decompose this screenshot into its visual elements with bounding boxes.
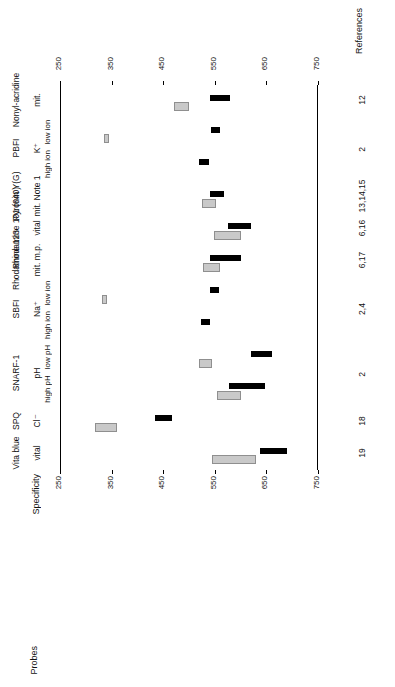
chart-bar	[199, 359, 212, 368]
probe-label: Rhodamine 123	[12, 230, 21, 292]
specificity-label: vital	[33, 221, 42, 238]
specificity-label: mit. Note 1	[33, 176, 42, 219]
probe-sublabel: high ion	[44, 311, 52, 341]
axis-tick	[318, 81, 319, 85]
specificity-label: mit.	[33, 93, 42, 109]
chart-bar	[211, 127, 220, 133]
chart-bar	[201, 319, 210, 325]
chart-bar	[155, 415, 172, 421]
chart-bar	[212, 455, 256, 464]
probe-label: SBFI	[12, 299, 21, 320]
figure-root: Probes Specificity References 2502503503…	[0, 0, 395, 687]
chart-bar	[95, 423, 117, 432]
axis-tick-label: 250	[55, 57, 63, 72]
chart-bar	[229, 383, 265, 389]
probe-label: PBFI	[12, 139, 21, 160]
chart-bar	[199, 159, 208, 165]
axis-tick-label: 350	[107, 476, 115, 491]
reference-label: 18	[358, 416, 367, 427]
axis-tick	[318, 470, 319, 474]
chart-bar	[203, 263, 220, 272]
chart-bar	[251, 351, 272, 357]
axis-tick-label: 550	[210, 57, 218, 72]
reference-label: 2,4	[358, 303, 367, 317]
probe-sublabel: low ion	[44, 280, 52, 307]
reference-label: 19	[358, 448, 367, 459]
probe-sublabel: high pH	[44, 375, 52, 405]
chart-bar	[210, 255, 241, 261]
axis-tick-label: 350	[107, 57, 115, 72]
probe-label: SPQ	[12, 412, 21, 432]
probe-sublabel: low pH	[44, 344, 52, 370]
reference-label: 13,14,15	[358, 180, 367, 215]
axis-tick-label: 450	[158, 57, 166, 72]
axis-tick	[112, 470, 113, 474]
reference-label: 6,17	[358, 252, 367, 271]
chart-bar	[102, 295, 107, 304]
specificity-label: Cl⁻	[33, 414, 42, 429]
reference-label: 2	[358, 369, 367, 379]
chart-bar	[217, 391, 240, 400]
header-specificity: Specificity	[32, 474, 41, 517]
chart-bar	[104, 134, 109, 143]
header-references: References	[355, 8, 364, 56]
axis-tick	[163, 470, 164, 474]
axis-tick-label: 650	[261, 476, 269, 491]
header-probes: Probes	[30, 646, 39, 677]
chart-bar	[260, 448, 287, 454]
chart-bar	[210, 95, 231, 101]
axis-tick-label: 250	[55, 476, 63, 491]
axis-tick-label: 750	[313, 476, 321, 491]
probe-sublabel: high ion	[44, 150, 52, 180]
axis-tick-label: 750	[313, 57, 321, 72]
chart-bar	[210, 287, 219, 293]
chart-bar	[228, 223, 251, 229]
probe-sublabel: low ion	[44, 120, 52, 147]
chart-bar	[174, 102, 189, 111]
specificity-label: vital	[33, 445, 42, 462]
probe-label: Nonyl-acridine	[12, 73, 21, 129]
reference-label: 6,16	[358, 220, 367, 239]
probe-label: Vita blue	[12, 436, 21, 471]
axis-tick-label: 450	[158, 476, 166, 491]
specificity-label: mit. m.p.	[33, 244, 42, 279]
reference-label: 2	[358, 144, 367, 154]
axis-tick	[215, 470, 216, 474]
probe-label: SNARF-1	[12, 355, 21, 393]
chart-bar	[202, 199, 216, 208]
axis-tick	[266, 470, 267, 474]
chart-bar	[214, 231, 241, 240]
specificity-label: Na⁺	[33, 301, 42, 319]
axis-tick	[60, 470, 61, 474]
reference-label: 12	[358, 95, 367, 106]
axis-tick-label: 650	[261, 57, 269, 72]
specificity-label: K⁺	[33, 143, 42, 156]
chart-bar	[210, 191, 224, 197]
plot-area	[60, 85, 318, 470]
specificity-label: pH	[33, 367, 42, 380]
axis-tick-label: 550	[210, 476, 218, 491]
